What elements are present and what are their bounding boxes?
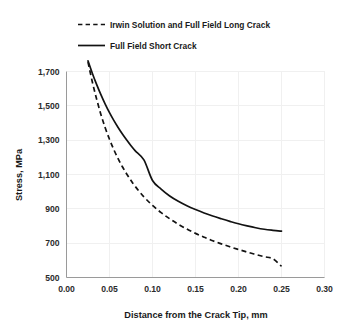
x-axis-tick-label: 0.15	[187, 284, 204, 294]
series-line-full-field-short-crack	[88, 61, 282, 231]
y-axis-tick-label: 1,500	[38, 101, 60, 111]
legend: Irwin Solution and Full Field Long Crack…	[78, 20, 270, 51]
x-axis-tick-labels: 0.000.050.100.150.200.250.30	[58, 284, 333, 294]
series-line-irwin-solution	[88, 62, 282, 266]
x-axis-tick-label: 0.00	[58, 284, 75, 294]
y-axis-tick-label: 1,300	[38, 135, 60, 145]
x-axis-tick-label: 0.20	[230, 284, 247, 294]
y-axis-title: Stress, MPa	[14, 148, 24, 201]
y-axis-tick-label: 700	[45, 238, 60, 248]
y-axis-tick-label: 900	[45, 204, 60, 214]
stress-vs-distance-chart: Irwin Solution and Full Field Long Crack…	[0, 0, 353, 334]
x-axis-tick-label: 0.10	[144, 284, 161, 294]
x-axis-tick-label: 0.25	[273, 284, 290, 294]
legend-label-irwin-solution: Irwin Solution and Full Field Long Crack	[110, 20, 270, 30]
legend-label-full-field-short-crack: Full Field Short Crack	[110, 41, 197, 51]
x-axis-tick-label: 0.05	[101, 284, 118, 294]
y-axis-tick-labels: 5007009001,1001,3001,5001,700	[38, 67, 60, 283]
x-axis-title: Distance from the Crack Tip, mm	[124, 310, 267, 320]
y-axis-tick-label: 1,100	[38, 170, 60, 180]
y-axis-tick-label: 500	[45, 273, 60, 283]
chart-container: Irwin Solution and Full Field Long Crack…	[0, 0, 353, 334]
x-axis-tick-label: 0.30	[316, 284, 333, 294]
y-axis-tick-label: 1,700	[38, 67, 60, 77]
